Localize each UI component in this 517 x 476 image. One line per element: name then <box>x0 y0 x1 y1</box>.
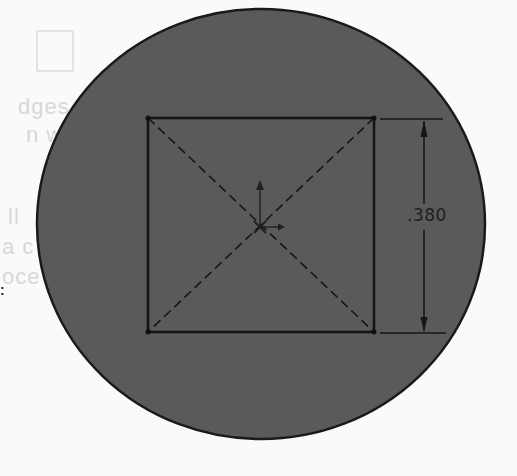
dimension-value-label[interactable]: .380 <box>407 205 447 225</box>
cad-sketch-drawing <box>0 0 517 476</box>
